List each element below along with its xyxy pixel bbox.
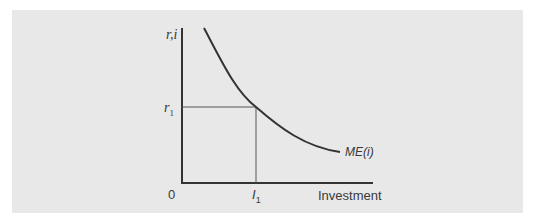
chart-plot bbox=[0, 0, 537, 223]
curve-label: ME(i) bbox=[345, 146, 374, 158]
me-curve bbox=[204, 28, 340, 152]
origin-label: 0 bbox=[168, 188, 175, 201]
x-axis-label: Investment bbox=[318, 189, 382, 202]
y-axis-label: r,i bbox=[166, 28, 177, 42]
r1-label: r1 bbox=[164, 101, 174, 118]
i1-label: I1 bbox=[252, 188, 261, 205]
